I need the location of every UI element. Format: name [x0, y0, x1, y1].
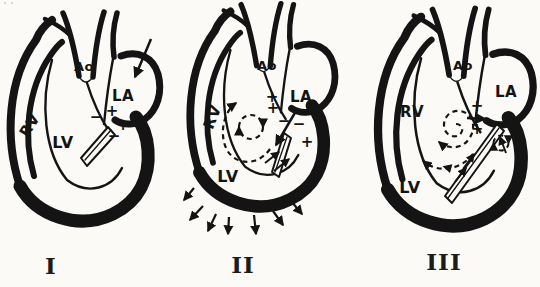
label-left-ventricle: LV — [217, 167, 238, 186]
apex-expansion-arrows — [184, 188, 302, 234]
label-right-ventricle: RV — [400, 103, 424, 121]
ventricular-vortex — [223, 103, 270, 162]
heart-diagram-phase-2: + + − − + Ao LA RV LV II — [180, 0, 360, 287]
apex-arrow — [228, 217, 229, 234]
phase-numeral: II — [231, 251, 255, 278]
label-left-ventricle: LV — [52, 133, 73, 152]
sign-outflow-plus-lower: + — [471, 120, 484, 138]
mitral-leaflet-line — [448, 128, 499, 198]
sign-valve-plus: + — [301, 133, 314, 151]
label-right-ventricle: RV — [199, 103, 225, 132]
label-left-ventricle: LV — [399, 178, 420, 197]
sweep-arrowhead — [441, 162, 452, 173]
heart-diagram-phase-3: + + − + Ao LA RV LV III — [360, 0, 540, 287]
sign-inflow-minus-2: − — [293, 115, 306, 133]
spiral-arrow — [439, 111, 473, 147]
phase-numeral: I — [45, 252, 57, 279]
sign-atrial-plus: + — [512, 134, 525, 152]
label-left-atrium: LA — [290, 88, 312, 106]
label-aorta: Ao — [453, 58, 473, 73]
vortex-outer-arc — [223, 103, 270, 162]
apex-arrow — [184, 188, 194, 200]
label-aorta: Ao — [74, 59, 94, 74]
heart-diagram-phase-1: − + + − Ao LA RV LV I — [0, 0, 180, 287]
label-left-atrium: LA — [112, 87, 134, 105]
vortex-inner-arc-top — [239, 115, 263, 127]
outflow-arrow — [467, 118, 485, 119]
label-left-atrium: LA — [495, 83, 517, 101]
sign-outflow-minus: − — [90, 108, 103, 126]
sign-valve-lower-minus: − — [108, 127, 121, 145]
ventricular-spiral-vortex — [423, 111, 473, 173]
sign-inflow-minus-1: − — [278, 112, 291, 130]
vortex-inner-arc-bottom — [239, 127, 263, 139]
sign-outflow-plus-upper: + — [471, 97, 484, 115]
label-right-ventricle: RV — [16, 110, 44, 140]
apex-arrow — [273, 211, 283, 225]
phase-numeral: III — [426, 248, 461, 275]
figure-canvas: − + + − Ao LA RV LV I — [0, 0, 540, 287]
apex-arrow — [254, 215, 256, 234]
apex-arrow — [208, 214, 216, 231]
apex-arrow — [190, 206, 203, 220]
label-aorta: Ao — [257, 58, 277, 73]
sign-atrial-minus: − — [494, 116, 507, 134]
